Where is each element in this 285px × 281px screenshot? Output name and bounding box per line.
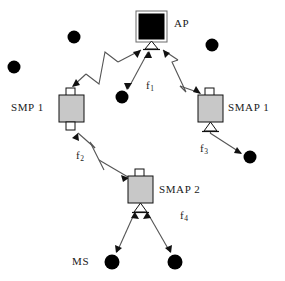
smap2-box-icon xyxy=(128,176,153,203)
smp1-bottom-stub-icon xyxy=(66,122,75,130)
mobile-station-dot[interactable] xyxy=(116,91,129,104)
mobile-station-dot[interactable] xyxy=(168,255,183,270)
mobile-station-dot[interactable] xyxy=(8,61,21,74)
link-layer xyxy=(73,50,241,252)
label-f1: f1 xyxy=(146,80,153,91)
smap1-antenna-icon xyxy=(204,122,217,131)
smap1-box-icon xyxy=(198,95,223,122)
label-ms: MS xyxy=(72,256,89,267)
node-smp1[interactable] xyxy=(59,88,84,130)
arrowhead-icon xyxy=(234,147,242,154)
arrowhead-layer xyxy=(72,50,242,253)
smap2-antenna-icon xyxy=(134,203,147,212)
arrowhead-icon xyxy=(115,245,122,253)
link-ap-smp1[interactable] xyxy=(73,50,141,86)
label-f4: f4 xyxy=(180,210,187,221)
mobile-station-dot[interactable] xyxy=(68,31,81,44)
arrowhead-icon xyxy=(72,133,79,141)
label-ap: AP xyxy=(174,18,189,29)
mobile-station-dot[interactable] xyxy=(105,255,120,270)
diagram-canvas: AP SMP 1 SMAP 1 SMAP 2 MS f1 f2 f3 f4 xyxy=(0,0,285,281)
node-smap2[interactable] xyxy=(128,169,153,213)
mobile-station-layer xyxy=(8,31,257,270)
label-smap1: SMAP 1 xyxy=(228,102,269,113)
mobile-station-dot[interactable] xyxy=(206,39,219,52)
mobile-station-dot[interactable] xyxy=(244,151,257,164)
f2-sub: 2 xyxy=(80,154,84,163)
link-ap-smap1[interactable] xyxy=(163,50,200,93)
link-smp1-smap2[interactable] xyxy=(78,133,128,177)
node-ap[interactable] xyxy=(136,11,167,50)
label-f3: f3 xyxy=(200,143,207,154)
label-f2: f2 xyxy=(76,150,83,161)
network-topology-graphic xyxy=(0,0,285,281)
f4-sub: 4 xyxy=(184,214,188,223)
arrowhead-icon xyxy=(163,50,170,58)
ap-screen-icon xyxy=(139,14,165,40)
f3-sub: 3 xyxy=(204,147,208,156)
node-smap1[interactable] xyxy=(198,88,223,132)
arrowhead-icon xyxy=(193,86,201,94)
label-smp1: SMP 1 xyxy=(11,102,44,113)
f1-sub: 1 xyxy=(150,84,154,93)
label-smap2: SMAP 2 xyxy=(159,184,200,195)
smp1-box-icon xyxy=(59,95,84,122)
